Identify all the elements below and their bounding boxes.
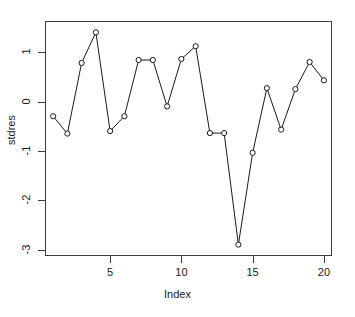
- data-point: [321, 78, 326, 83]
- y-axis-label: stdres: [5, 100, 17, 160]
- plot-area: [45, 21, 332, 256]
- data-point: [150, 57, 155, 62]
- data-point: [264, 86, 269, 91]
- data-point: [108, 128, 113, 133]
- data-point: [165, 104, 170, 109]
- y-tick-mark: [38, 52, 45, 53]
- data-line: [53, 32, 324, 244]
- y-tick-mark: [38, 200, 45, 201]
- scatter-line-chart: 10-1-2-3 5101520 stdres Index: [0, 0, 355, 317]
- y-tick-label: -1: [21, 140, 32, 160]
- data-point: [279, 127, 284, 132]
- data-point: [207, 130, 212, 135]
- y-tick-label: 0: [21, 91, 32, 111]
- y-tick-mark: [38, 250, 45, 251]
- x-tick-mark: [324, 256, 325, 263]
- y-tick-mark: [38, 102, 45, 103]
- x-tick-mark: [253, 256, 254, 263]
- data-point: [51, 114, 56, 119]
- x-axis-label: Index: [0, 288, 355, 300]
- x-tick-label: 5: [95, 266, 125, 278]
- data-point: [136, 57, 141, 62]
- data-point: [222, 130, 227, 135]
- data-markers: [51, 30, 327, 247]
- x-tick-label: 10: [166, 266, 196, 278]
- data-point: [179, 56, 184, 61]
- x-tick-label: 20: [309, 266, 339, 278]
- y-tick-label: -3: [21, 239, 32, 259]
- x-tick-mark: [181, 256, 182, 263]
- y-tick-label: 1: [21, 42, 32, 62]
- data-point: [250, 150, 255, 155]
- data-point: [122, 114, 127, 119]
- data-point: [79, 60, 84, 65]
- y-tick-label: -2: [21, 190, 32, 210]
- data-point: [293, 87, 298, 92]
- data-point: [93, 30, 98, 35]
- data-point: [307, 59, 312, 64]
- x-tick-mark: [110, 256, 111, 263]
- data-point: [193, 44, 198, 49]
- y-tick-mark: [38, 151, 45, 152]
- x-tick-label: 15: [238, 266, 268, 278]
- data-point: [236, 242, 241, 247]
- data-point: [65, 131, 70, 136]
